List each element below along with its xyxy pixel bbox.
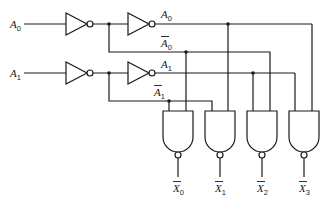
svg-text:A1: A1	[160, 58, 172, 73]
label-a1-bar: A1	[153, 86, 165, 102]
svg-text:X2: X2	[256, 182, 268, 197]
svg-text:A1: A1	[153, 86, 165, 101]
output-label-x2: X2	[256, 182, 268, 198]
output-label-x3: X3	[298, 182, 310, 198]
svg-text:A1: A1	[9, 67, 21, 82]
decoder-diagram: A0 A1 A0 A0	[0, 0, 331, 205]
output-label-x1: X1	[214, 182, 226, 198]
input-label-a0: A0	[9, 18, 21, 33]
inverter-1-a1	[66, 62, 93, 84]
output-label-x0: X0	[172, 182, 184, 198]
svg-text:X0: X0	[172, 182, 184, 197]
label-a0: A0	[160, 8, 172, 23]
svg-text:X1: X1	[214, 182, 226, 197]
nand-gate-x3	[289, 111, 319, 177]
nand-gate-x1	[205, 111, 235, 177]
inverter-2-a1	[128, 62, 155, 84]
inverter-1-a0	[66, 13, 93, 35]
input-label-a1: A1	[9, 67, 21, 82]
nand-gate-x2	[247, 111, 277, 177]
label-a0-bar: A0	[160, 37, 172, 53]
svg-text:A0: A0	[9, 18, 21, 33]
nand-gate-x0	[163, 111, 193, 177]
svg-text:A0: A0	[160, 8, 172, 23]
inverter-2-a0	[128, 13, 155, 35]
svg-text:X3: X3	[298, 182, 310, 197]
svg-text:A0: A0	[160, 37, 172, 52]
label-a1: A1	[160, 58, 172, 73]
